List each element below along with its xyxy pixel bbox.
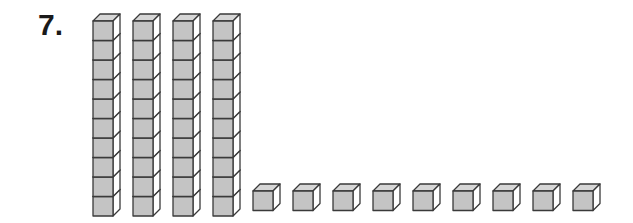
unit-cube <box>573 184 600 211</box>
ones-cubes <box>253 184 600 211</box>
unit-cube <box>453 184 480 211</box>
unit-cube <box>253 184 280 211</box>
unit-cube <box>293 184 320 211</box>
tens-rod <box>173 14 200 216</box>
tens-rod <box>213 14 240 216</box>
unit-cube <box>413 184 440 211</box>
base-ten-blocks <box>0 0 633 223</box>
tens-rod <box>93 14 120 216</box>
unit-cube <box>533 184 560 211</box>
tens-rod <box>133 14 160 216</box>
unit-cube <box>493 184 520 211</box>
tens-rods <box>93 14 240 216</box>
unit-cube <box>333 184 360 211</box>
unit-cube <box>373 184 400 211</box>
